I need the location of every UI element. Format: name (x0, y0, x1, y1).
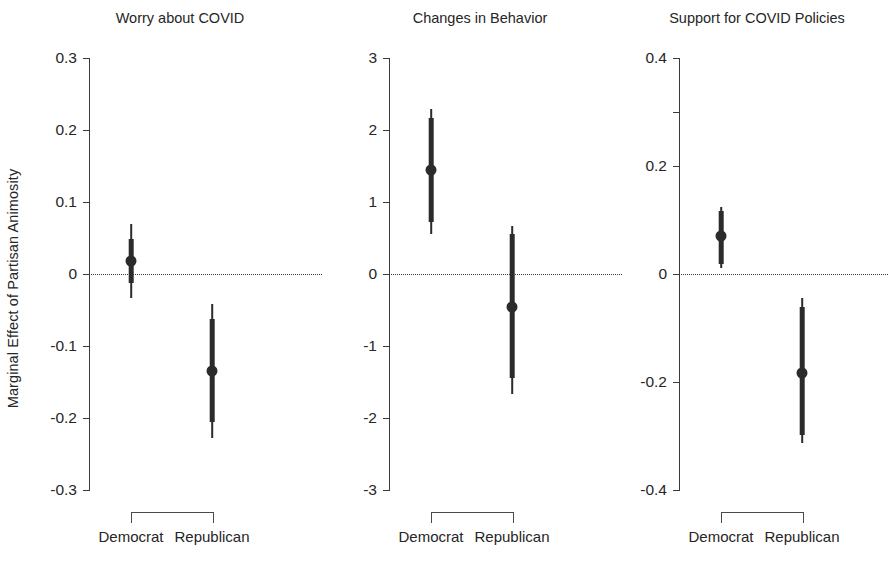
zero-reference-line (383, 274, 622, 275)
y-tick (83, 130, 90, 131)
y-tick (83, 418, 90, 419)
y-tick-label: -3 (363, 481, 377, 499)
category-bracket (131, 512, 214, 523)
y-tick (383, 202, 390, 203)
point-estimate-marker (126, 256, 137, 267)
y-tick-label: 0.4 (645, 49, 667, 67)
y-tick-label: 0.2 (55, 121, 77, 139)
y-tick-label: 0.3 (55, 49, 77, 67)
y-tick (83, 490, 90, 491)
y-tick (383, 418, 390, 419)
y-tick (673, 58, 680, 59)
category-bracket (721, 512, 804, 523)
y-tick-label: -0.1 (50, 337, 77, 355)
y-tick-label: -0.3 (50, 481, 77, 499)
category-label-democrat: Democrat (398, 528, 463, 545)
point-estimate-marker (797, 367, 808, 378)
category-label-democrat: Democrat (688, 528, 753, 545)
y-tick-label: 0.2 (645, 157, 667, 175)
zero-reference-line (83, 274, 322, 275)
y-tick-label: 0 (658, 265, 667, 283)
y-tick (83, 346, 90, 347)
point-estimate-marker (716, 231, 727, 242)
y-tick-label: 3 (368, 49, 377, 67)
y-tick (383, 490, 390, 491)
y-tick (383, 346, 390, 347)
y-tick-label: -2 (363, 409, 377, 427)
y-tick (83, 58, 90, 59)
y-tick-label: -1 (363, 337, 377, 355)
panel-1: Worry about COVID0.30.20.10-0.1-0.2-0.3D… (30, 0, 330, 577)
y-tick-label: 0.1 (55, 193, 77, 211)
panel-title: Support for COVID Policies (620, 10, 894, 26)
panel-title: Worry about COVID (30, 10, 330, 26)
y-axis-label: Marginal Effect of Partisan Animosity (0, 0, 26, 577)
category-label-republican: Republican (474, 528, 549, 545)
y-tick-label: -0.2 (50, 409, 77, 427)
category-label-republican: Republican (764, 528, 839, 545)
category-bracket (431, 512, 514, 523)
category-label-republican: Republican (174, 528, 249, 545)
y-tick (673, 166, 680, 167)
point-estimate-marker (507, 302, 518, 313)
category-label-democrat: Democrat (98, 528, 163, 545)
y-tick-label: 2 (368, 121, 377, 139)
point-estimate-marker (426, 164, 437, 175)
y-tick (383, 58, 390, 59)
coefficient-plot-figure: Marginal Effect of Partisan Animosity Wo… (0, 0, 894, 577)
y-tick (383, 130, 390, 131)
y-tick-label: 1 (368, 193, 377, 211)
y-tick (673, 382, 680, 383)
y-tick (673, 490, 680, 491)
y-tick-label: -0.4 (640, 481, 667, 499)
y-tick-label: 0 (368, 265, 377, 283)
zero-reference-line (673, 274, 888, 275)
y-tick-label: 0 (68, 265, 77, 283)
y-tick-label: -0.2 (640, 373, 667, 391)
y-tick (673, 112, 680, 113)
panel-2: Changes in Behavior3210-1-2-3DemocratRep… (330, 0, 630, 577)
panel-3: Support for COVID Policies0.40.20-0.2-0.… (620, 0, 894, 577)
point-estimate-marker (207, 366, 218, 377)
panel-title: Changes in Behavior (330, 10, 630, 26)
y-tick (83, 202, 90, 203)
